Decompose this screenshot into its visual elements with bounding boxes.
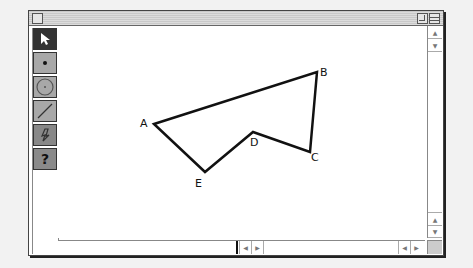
scroll-right-button[interactable]: ▶	[251, 241, 264, 254]
arrow-left-icon: ◀	[402, 244, 407, 251]
scroll-down-button[interactable]: ▼	[428, 39, 442, 52]
grow-box[interactable]	[427, 240, 442, 254]
tool-help[interactable]: ?	[33, 148, 57, 170]
tool-palette: ?	[32, 28, 59, 254]
title-bar[interactable]	[29, 11, 443, 26]
horizontal-scrollbar[interactable]: ◀ ▶ ◀ ▶	[58, 240, 425, 254]
drawing-canvas[interactable]: A B C D E	[58, 26, 425, 238]
scroll-right-button-end[interactable]: ▶	[410, 241, 422, 254]
collapse-box-button[interactable]	[429, 13, 440, 24]
scroll-up-button[interactable]: ▲	[428, 26, 442, 39]
tool-custom[interactable]	[33, 124, 57, 146]
scroll-down-button-bottom[interactable]: ▼	[428, 225, 442, 238]
question-icon: ?	[41, 151, 49, 167]
line-segment-icon	[36, 102, 54, 120]
point-label-d[interactable]: D	[250, 136, 258, 149]
arrow-right-icon: ▶	[414, 244, 419, 251]
point-label-e[interactable]: E	[195, 177, 202, 190]
custom-tool-icon	[38, 127, 52, 143]
scroll-split-bar[interactable]	[236, 241, 238, 254]
scroll-left-button[interactable]: ◀	[239, 241, 251, 254]
arrow-up-icon: ▲	[433, 216, 438, 223]
sketch-window: ? A B C D E ▲ ▼ ▲ ▼ ◀ ▶ ◀ ▶	[28, 10, 444, 256]
arrow-pointer-icon	[39, 32, 51, 46]
zoom-box-button[interactable]	[417, 13, 428, 24]
scroll-left-button-end[interactable]: ◀	[398, 241, 410, 254]
arrow-up-icon: ▲	[433, 29, 438, 36]
point-label-b[interactable]: B	[320, 66, 328, 79]
tool-straightedge[interactable]	[33, 100, 57, 122]
polygon-figure	[58, 26, 425, 238]
point-label-a[interactable]: A	[140, 117, 148, 130]
arrow-right-icon: ▶	[255, 244, 260, 251]
circle-icon	[35, 77, 55, 97]
arrow-down-icon: ▼	[433, 228, 438, 235]
point-icon	[40, 58, 50, 68]
tool-point[interactable]	[33, 52, 57, 74]
point-label-c[interactable]: C	[311, 151, 319, 164]
arrow-left-icon: ◀	[243, 244, 248, 251]
tool-compass[interactable]	[33, 76, 57, 98]
tool-arrow[interactable]	[33, 28, 57, 50]
vertical-scrollbar[interactable]: ▲ ▼ ▲ ▼	[427, 26, 442, 238]
arrow-down-icon: ▼	[433, 42, 438, 49]
close-box-button[interactable]	[32, 13, 43, 24]
scroll-up-button-bottom[interactable]: ▲	[428, 212, 442, 226]
